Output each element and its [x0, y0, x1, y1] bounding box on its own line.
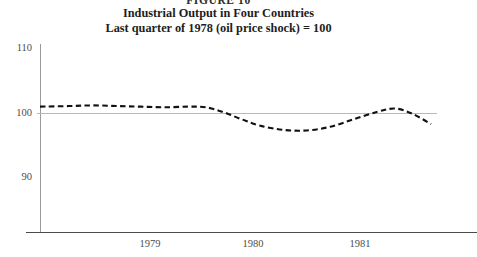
y-tick-label-90: 90	[2, 171, 32, 182]
y-tick-label-110: 110	[2, 42, 32, 53]
series-line-industrial-output	[40, 105, 431, 130]
x-tick-label-1981: 1981	[337, 238, 383, 249]
figure-title: Industrial Output in Four Countries	[0, 6, 437, 21]
x-tick-label-1980: 1980	[230, 238, 276, 249]
plot-area	[40, 44, 437, 232]
series-svg	[40, 44, 437, 232]
x-axis-line	[26, 232, 477, 233]
y-tick-label-100: 100	[2, 107, 32, 118]
x-tick-label-1979: 1979	[127, 238, 173, 249]
figure-subtitle: Last quarter of 1978 (oil price shock) =…	[0, 21, 437, 36]
